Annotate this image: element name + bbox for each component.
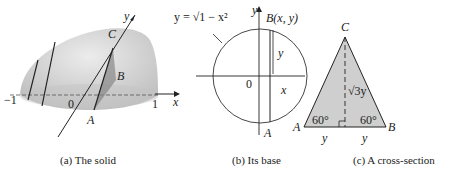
label-zero: 0 [68, 97, 74, 111]
label-x-axis-a: x [172, 95, 179, 109]
label-A: A [86, 113, 95, 127]
label-angle-left: 60° [312, 113, 329, 127]
label-C-c: C [341, 20, 350, 34]
label-A-b: A [263, 126, 272, 140]
panel-a-solid: C B A −1 1 0 y (a) The solid [4, 9, 158, 167]
label-y-axis-b: y [251, 3, 258, 17]
panel-b-base: x y B(x, y) y 0 x A y = √1 − x² (b) Its … [155, 3, 307, 167]
label-height: √3y [348, 84, 367, 98]
label-equation: y = √1 − x² [174, 10, 228, 24]
caption-a: (a) The solid [60, 154, 117, 167]
label-y-brace: y [277, 46, 284, 60]
label-one: 1 [152, 97, 158, 111]
label-C: C [108, 27, 117, 41]
label-B-c: B [388, 120, 396, 134]
label-base-left: y [321, 131, 328, 145]
label-x-mark: x [280, 83, 287, 97]
caption-c: (c) A cross-section [353, 154, 435, 167]
label-zero-b: 0 [246, 77, 252, 91]
label-B: B [117, 69, 125, 83]
label-angle-right: 60° [360, 113, 377, 127]
label-y-axis: y [123, 9, 130, 23]
caption-b: (b) Its base [232, 154, 281, 167]
label-base-right: y [361, 131, 368, 145]
label-A-c: A [292, 120, 301, 134]
label-neg-one: −1 [4, 93, 17, 107]
label-point-B: B(x, y) [266, 11, 298, 25]
panel-c-cross-section: C A B √3y 60° 60° y y (c) A cross-sectio… [292, 20, 435, 167]
figure: C B A −1 1 0 y (a) The solid x y B(x, y)… [0, 0, 458, 174]
